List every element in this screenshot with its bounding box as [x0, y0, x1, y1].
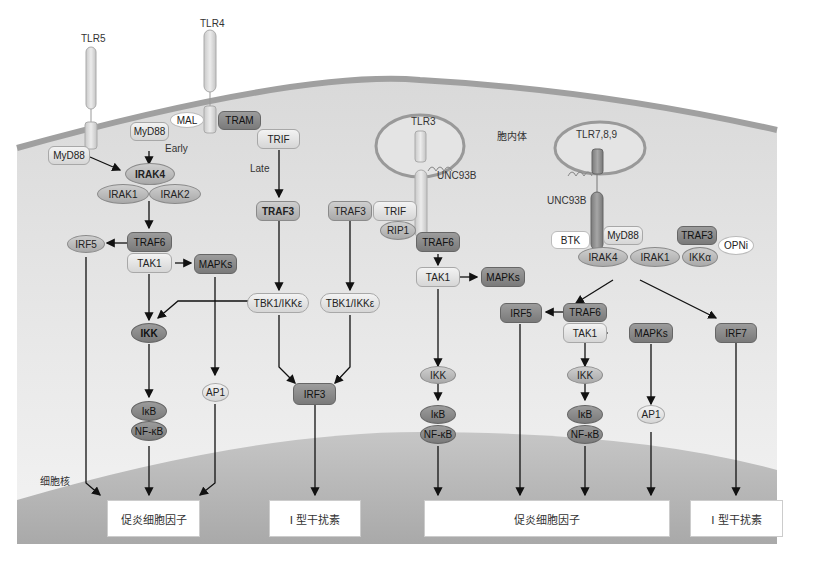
tlr5-myd88-node: MyD88 — [48, 146, 90, 165]
tlr789-receptor-luminal — [592, 149, 603, 174]
tlr789-traf3-node: TRAF3 — [677, 226, 717, 245]
tlr3-trif-node: TRIF — [373, 201, 417, 221]
tlr789-irak4-node: IRAK4 — [578, 247, 628, 267]
tlr4-traf3-node: TRAF3 — [256, 201, 300, 221]
tlr5-ikb-node: IκB — [131, 401, 167, 421]
tlr3-unc93b-label: UNC93B — [437, 170, 476, 181]
tlr5-label: TLR5 — [81, 33, 105, 44]
irf7-node: IRF7 — [715, 323, 757, 343]
tlr5-receptor-tm — [85, 122, 97, 149]
tlr789-receptor-cyto — [591, 192, 603, 250]
irak4-node: IRAK4 — [125, 163, 175, 185]
tlr3-receptor-luminal — [415, 131, 426, 162]
tlr5-traf6-node: TRAF6 — [127, 232, 172, 252]
mal-node: MAL — [170, 112, 204, 128]
output-proinflammatory-1: 促炎细胞因子 — [107, 500, 200, 537]
tlr5-ikk-node: IKK — [131, 323, 167, 343]
tlr3-receptor-cyto — [415, 170, 427, 238]
tlr789-ikk-node: IKK — [567, 366, 603, 384]
output-proinflammatory-2: 促炎细胞因子 — [424, 500, 670, 537]
tlr3-tbk1-node: TBK1/IKKε — [320, 293, 380, 313]
tlr789-ap1-node: AP1 — [637, 405, 665, 424]
tlr789-tak1-node: TAK1 — [563, 323, 607, 343]
tlr4-receptor-ecto — [204, 30, 216, 92]
tlr789-ikb-node: IκB — [567, 405, 603, 424]
tlr4-trif-node: TRIF — [257, 129, 300, 149]
output-type1-ifn-1: I 型干扰素 — [269, 500, 361, 537]
irf3-node: IRF3 — [293, 383, 336, 405]
tlr789-nfkb-node: NF-κB — [567, 425, 603, 444]
tlr3-nfkb-node: NF-κB — [420, 425, 456, 444]
tlr4-label: TLR4 — [200, 18, 224, 29]
tlr5-mapks-node: MAPKs — [194, 254, 237, 274]
tlr3-ikk-node: IKK — [420, 366, 456, 384]
tram-node: TRAM — [218, 111, 261, 130]
tlr789-myd88-node: MyD88 — [603, 226, 643, 245]
tlr3-label: TLR3 — [411, 116, 435, 127]
endosome-label: 胞内体 — [497, 128, 527, 143]
tlr789-irf5-node: IRF5 — [500, 303, 542, 323]
tlr4-receptor-tm — [204, 106, 216, 133]
tlr5-tak1-node: TAK1 — [127, 253, 172, 273]
opni-node: OPNi — [718, 236, 754, 255]
tlr5-irf5-node: IRF5 — [67, 235, 105, 253]
btk-node: BTK — [551, 231, 590, 249]
irak1-node: IRAK1 — [97, 184, 149, 204]
tlr3-traf3-node: TRAF3 — [328, 201, 372, 221]
nucleus-label: 细胞核 — [40, 473, 70, 488]
tlr789-unc93b-label: UNC93B — [547, 195, 586, 206]
tlr3-mapks-node: MAPKs — [481, 267, 525, 287]
ikka-node: IKKα — [682, 247, 718, 267]
tlr4-myd88-node: MyD88 — [130, 122, 169, 141]
late-label: Late — [250, 163, 269, 174]
tlr5-nfkb-node: NF-κB — [131, 421, 167, 441]
tlr-signaling-diagram — [0, 0, 823, 561]
tlr789-mapks-node: MAPKs — [629, 323, 673, 343]
tlr3-tak1-node: TAK1 — [416, 267, 460, 287]
early-label: Early — [165, 143, 188, 154]
tlr789-traf6-node: TRAF6 — [563, 303, 607, 322]
tlr5-ap1-node: AP1 — [202, 383, 229, 402]
tlr789-irak1-node: IRAK1 — [630, 247, 680, 267]
tlr789-label: TLR7,8,9 — [576, 129, 617, 140]
tlr5-receptor-ecto — [86, 47, 96, 109]
tlr4-tbk1-node: TBK1/IKKε — [247, 293, 309, 313]
irak2-node: IRAK2 — [149, 184, 201, 204]
output-type1-ifn-2: I 型干扰素 — [690, 500, 783, 537]
tlr3-traf6-node: TRAF6 — [416, 232, 460, 252]
rip1-node: RIP1 — [380, 221, 416, 240]
tlr3-ikb-node: IκB — [420, 405, 456, 424]
